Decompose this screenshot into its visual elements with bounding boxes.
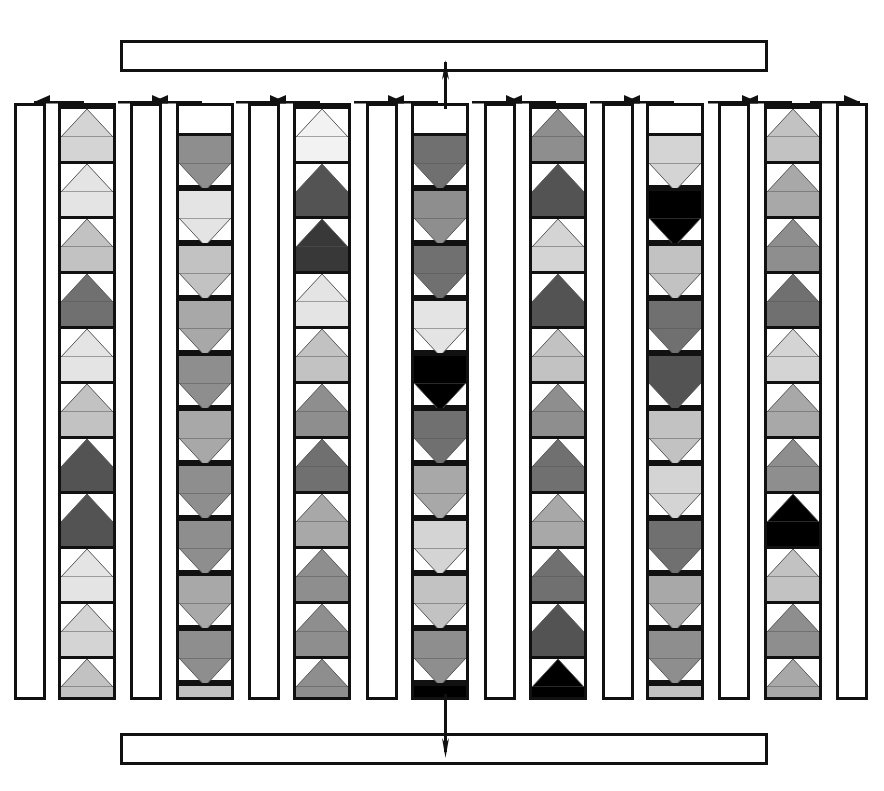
data-cell[interactable] <box>767 216 819 271</box>
data-cell[interactable] <box>179 518 231 573</box>
data-cell[interactable] <box>296 381 348 436</box>
data-cell[interactable] <box>179 133 231 188</box>
data-cell[interactable] <box>179 243 231 298</box>
data-cell[interactable] <box>649 628 701 683</box>
data-cell[interactable] <box>296 271 348 326</box>
data-cell[interactable] <box>296 106 348 161</box>
data-column[interactable] <box>411 103 469 700</box>
data-cell[interactable] <box>532 601 584 656</box>
data-cell[interactable] <box>767 436 819 491</box>
data-cell[interactable] <box>179 353 231 408</box>
data-cell[interactable] <box>179 408 231 463</box>
data-cell[interactable] <box>414 408 466 463</box>
data-cell[interactable] <box>649 298 701 353</box>
data-cell[interactable] <box>767 656 819 700</box>
triangle-down-icon <box>179 548 231 576</box>
data-column[interactable] <box>176 103 234 700</box>
solid-band <box>179 576 231 603</box>
data-cell[interactable] <box>767 546 819 601</box>
data-cell[interactable] <box>296 491 348 546</box>
data-cell[interactable] <box>649 408 701 463</box>
data-cell[interactable] <box>767 106 819 161</box>
data-cell[interactable] <box>179 463 231 518</box>
solid-band <box>767 247 819 274</box>
data-cell[interactable] <box>649 518 701 573</box>
data-cell[interactable] <box>414 243 466 298</box>
data-cell[interactable] <box>649 463 701 518</box>
data-cell[interactable] <box>414 573 466 628</box>
data-cell[interactable] <box>179 573 231 628</box>
data-cell[interactable] <box>649 188 701 243</box>
triangle-up-icon <box>767 439 819 467</box>
data-cell[interactable] <box>61 106 113 161</box>
data-cell[interactable] <box>296 326 348 381</box>
data-cell[interactable] <box>649 573 701 628</box>
data-cell[interactable] <box>532 381 584 436</box>
data-cell[interactable] <box>61 656 113 700</box>
data-cell[interactable] <box>296 601 348 656</box>
data-cell[interactable] <box>649 243 701 298</box>
data-column[interactable] <box>293 103 351 700</box>
data-cell[interactable] <box>532 491 584 546</box>
data-cell[interactable] <box>767 381 819 436</box>
data-cell[interactable] <box>649 683 701 700</box>
data-cell[interactable] <box>767 491 819 546</box>
data-cell[interactable] <box>649 133 701 188</box>
data-cell[interactable] <box>296 161 348 216</box>
data-cell[interactable] <box>296 436 348 491</box>
data-cell[interactable] <box>414 353 466 408</box>
data-column[interactable] <box>764 103 822 700</box>
data-cell[interactable] <box>414 683 466 700</box>
data-cell[interactable] <box>61 546 113 601</box>
data-cell[interactable] <box>296 656 348 700</box>
data-cell[interactable] <box>532 436 584 491</box>
data-cell[interactable] <box>296 216 348 271</box>
data-cell[interactable] <box>532 271 584 326</box>
data-cell[interactable] <box>532 326 584 381</box>
triangle-down-icon <box>649 658 701 686</box>
data-cell[interactable] <box>414 298 466 353</box>
data-cell[interactable] <box>179 188 231 243</box>
data-cell[interactable] <box>61 436 113 491</box>
data-cell[interactable] <box>767 161 819 216</box>
data-cell[interactable] <box>61 381 113 436</box>
triangle-up-icon <box>296 549 348 577</box>
data-cell[interactable] <box>61 601 113 656</box>
data-column[interactable] <box>58 103 116 700</box>
data-cell[interactable] <box>179 298 231 353</box>
data-column[interactable] <box>529 103 587 700</box>
data-cell[interactable] <box>532 656 584 700</box>
solid-band <box>296 137 348 164</box>
data-cell[interactable] <box>532 161 584 216</box>
data-cell[interactable] <box>532 216 584 271</box>
data-cell[interactable] <box>61 161 113 216</box>
data-cell[interactable] <box>767 601 819 656</box>
data-cell[interactable] <box>414 518 466 573</box>
solid-band <box>767 577 819 604</box>
solid-band <box>414 301 466 328</box>
data-column[interactable] <box>646 103 704 700</box>
triangle-up-icon <box>61 384 113 412</box>
data-cell[interactable] <box>179 628 231 683</box>
solid-band <box>414 411 466 438</box>
data-cell[interactable] <box>179 683 231 700</box>
triangle-up-icon <box>767 549 819 577</box>
data-cell[interactable] <box>767 271 819 326</box>
solid-band <box>649 191 701 218</box>
data-cell[interactable] <box>61 271 113 326</box>
data-cell[interactable] <box>61 216 113 271</box>
data-cell[interactable] <box>649 353 701 408</box>
data-cell[interactable] <box>61 326 113 381</box>
solid-band <box>296 632 348 659</box>
data-cell[interactable] <box>414 133 466 188</box>
data-cell[interactable] <box>414 628 466 683</box>
data-cell[interactable] <box>296 546 348 601</box>
data-cell[interactable] <box>414 188 466 243</box>
data-cell[interactable] <box>767 326 819 381</box>
solid-band <box>179 191 231 218</box>
triangle-down-icon <box>179 603 231 631</box>
data-cell[interactable] <box>414 463 466 518</box>
data-cell[interactable] <box>61 491 113 546</box>
data-cell[interactable] <box>532 546 584 601</box>
data-cell[interactable] <box>532 106 584 161</box>
